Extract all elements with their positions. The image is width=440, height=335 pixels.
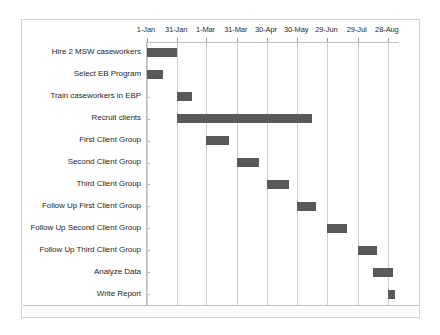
x-axis-tick-mark (177, 38, 178, 42)
bars-and-gridlines (147, 42, 399, 305)
task-label: Recruit clients (92, 113, 142, 122)
x-axis-tick-mark (297, 38, 298, 42)
task-label: First Client Group (79, 135, 141, 144)
x-axis-tick-mark (237, 38, 238, 42)
gridline (147, 42, 148, 305)
task-label: Follow Up Third Client Group (39, 245, 141, 254)
gridline (267, 42, 268, 305)
gantt-bar (147, 70, 163, 79)
gridline (297, 42, 298, 305)
gridline (177, 42, 178, 305)
gantt-bar (267, 180, 289, 189)
x-axis-tick-mark (358, 38, 359, 42)
task-label: Write Report (97, 289, 141, 298)
gantt-chart: 1-Jan31-Jan1-Mar31-Mar30-Apr30-May29-Jun… (21, 19, 420, 318)
task-label: Third Client Group (77, 179, 141, 188)
x-axis-tick-label: 1-Jan (137, 25, 155, 34)
gantt-bar (147, 48, 177, 57)
gantt-bar (327, 224, 346, 233)
x-axis-tick-label: 1-Mar (196, 25, 215, 34)
gridline (327, 42, 328, 305)
x-axis-tick-label: 31-Jan (165, 25, 187, 34)
gridline (206, 42, 207, 305)
x-axis-tick-mark (267, 38, 268, 42)
x-axis-tick-mark (206, 38, 207, 42)
gantt-bar (358, 246, 377, 255)
x-axis-tick-label: 30-Apr (255, 25, 277, 34)
x-axis-tick-mark (327, 38, 328, 42)
x-axis-tick-label: 31-Mar (224, 25, 247, 34)
task-label: Train caseworkers in EBP (50, 91, 141, 100)
gantt-bar (388, 290, 395, 299)
gridline (388, 42, 389, 305)
chart-bottom-rule (23, 305, 419, 306)
gantt-bar (177, 92, 192, 101)
task-label: Follow Up First Client Group (42, 201, 141, 210)
x-axis-tick-label: 29-Jun (315, 25, 337, 34)
x-axis-tick-label: 28-Aug (375, 25, 399, 34)
task-label-column: Hire 2 MSW caseworkersSelect EB ProgramT… (22, 42, 146, 305)
x-axis-tick-label: 29-Jul (347, 25, 367, 34)
task-label: Select EB Program (74, 69, 141, 78)
gantt-bar (206, 136, 228, 145)
gantt-bar (297, 202, 316, 211)
gridline (358, 42, 359, 305)
gantt-bar (177, 114, 312, 123)
x-axis-tick-mark (388, 38, 389, 42)
x-axis-tick-label: 30-May (284, 25, 308, 34)
gantt-bar (373, 268, 393, 277)
task-label: Hire 2 MSW caseworkers (52, 47, 141, 56)
x-axis-label-strip: 1-Jan31-Jan1-Mar31-Mar30-Apr30-May29-Jun… (22, 20, 419, 42)
gantt-bar (237, 158, 259, 167)
plot-area (146, 42, 399, 305)
task-label: Second Client Group (68, 157, 141, 166)
task-label: Analyze Data (94, 267, 141, 276)
gridline (237, 42, 238, 305)
x-axis-tick-mark (147, 38, 148, 42)
task-label: Follow Up Second Client Group (30, 223, 141, 232)
